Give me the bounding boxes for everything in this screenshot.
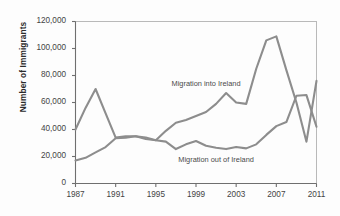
- series-line-1: [76, 36, 317, 141]
- chart-figure: Number of Immigrants 020,00040,00060,000…: [0, 0, 340, 216]
- plot-area: [0, 0, 340, 216]
- series-annotation-2: Migration out of Ireland: [178, 155, 254, 164]
- series-annotation-1: Migration into Ireland: [172, 79, 241, 88]
